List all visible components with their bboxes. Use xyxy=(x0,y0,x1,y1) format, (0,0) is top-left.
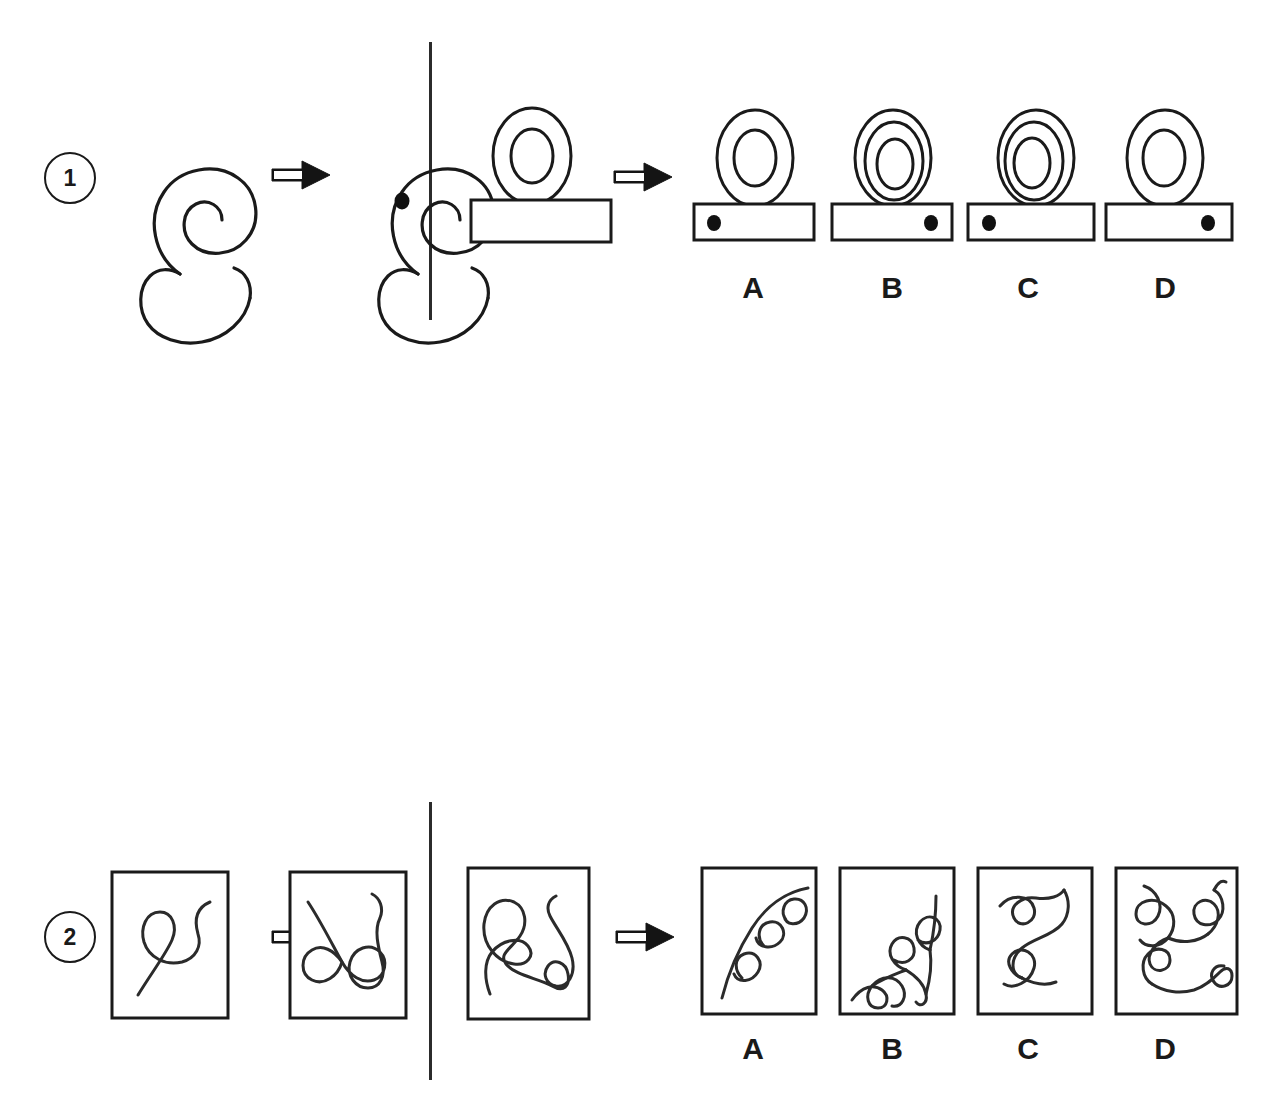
black-dot xyxy=(707,215,721,231)
black-dot xyxy=(924,215,938,231)
example-arrow-1 xyxy=(272,158,334,192)
option-b-three-ovals-dot-right[interactable] xyxy=(828,106,958,251)
black-dot xyxy=(1201,215,1215,231)
black-dot xyxy=(395,193,410,210)
option-c-three-ovals-dot-left[interactable] xyxy=(964,106,1104,251)
black-dot xyxy=(982,215,996,231)
puzzle-row-1: 1 xyxy=(0,0,1269,380)
question-source-oval-on-bar xyxy=(468,108,628,248)
row-number-1: 1 xyxy=(44,152,96,204)
puzzle-row-2: 2 xyxy=(0,380,1269,760)
test-sheet: 1 xyxy=(0,0,1269,1117)
option-label-b-row1: B xyxy=(872,271,912,305)
option-d-two-ovals-dot-right[interactable] xyxy=(1100,106,1240,251)
option-label-d-row1: D xyxy=(1145,271,1185,305)
example-source-spiral-shell xyxy=(110,98,300,288)
puzzle-row-3: 3 xyxy=(0,760,1269,1117)
option-label-c-row1: C xyxy=(1008,271,1048,305)
option-a-two-ovals-dot-left[interactable] xyxy=(690,106,820,251)
option-label-a-row1: A xyxy=(733,271,773,305)
question-arrow-1 xyxy=(614,160,676,194)
